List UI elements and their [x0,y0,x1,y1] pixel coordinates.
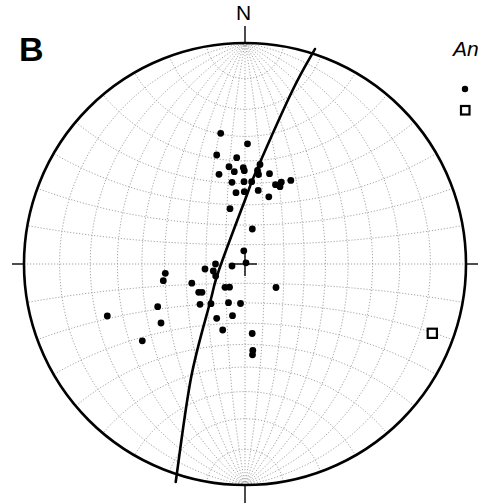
legend-open-square-icon [461,106,470,115]
data-point-filled-circle [226,284,233,291]
data-point-filled-circle [197,301,204,308]
data-point-filled-circle [212,261,219,268]
data-point-filled-circle [217,130,224,137]
legend-filled-circle-icon [462,86,468,92]
data-point-filled-circle [249,226,256,233]
data-point-filled-circle [266,170,273,177]
data-point-filled-circle [208,300,215,307]
data-point-filled-circle [248,178,255,185]
data-point-filled-circle [229,263,236,270]
data-point-filled-circle [225,299,232,306]
data-point-filled-circle [265,193,272,200]
data-point-filled-circle [255,171,262,178]
stereonet [0,0,483,503]
data-point-filled-circle [231,168,238,175]
data-point-filled-circle [249,330,256,337]
data-point-filled-circle [139,337,146,344]
data-point-filled-circle [219,327,226,334]
data-point-filled-circle [213,315,220,322]
data-point-filled-circle [240,247,247,254]
data-point-filled-circle [213,152,220,159]
data-point-filled-circle [226,163,233,170]
data-point-filled-circle [212,273,219,280]
data-point-filled-circle [277,183,284,190]
data-point-filled-circle [273,284,280,291]
data-point-filled-circle [249,351,256,358]
data-point-filled-circle [227,205,234,212]
data-point-filled-circle [199,289,206,296]
data-point-filled-circle [188,280,195,287]
data-point-filled-circle [229,312,236,319]
data-point-filled-circle [162,270,169,277]
data-point-filled-circle [243,259,250,266]
data-point-filled-circle [255,187,262,194]
data-point-filled-circle [229,179,236,186]
data-point-filled-circle [257,161,264,168]
data-point-filled-circle [158,320,165,327]
data-point-filled-circle [216,171,223,178]
data-point-filled-circle [244,140,251,147]
data-point-filled-circle [104,313,111,320]
data-point-filled-circle [241,178,248,185]
data-point-filled-circle [154,303,161,310]
data-point-filled-circle [233,189,240,196]
data-point-filled-circle [233,154,240,161]
data-point-filled-circle [237,300,244,307]
data-point-filled-circle [241,167,248,174]
data-point-filled-circle [202,266,209,273]
data-point-filled-circle [287,177,294,184]
data-point-filled-circle [241,188,248,195]
data-point-open-square [428,329,437,338]
legend [461,86,470,115]
data-point-filled-circle [160,277,167,284]
